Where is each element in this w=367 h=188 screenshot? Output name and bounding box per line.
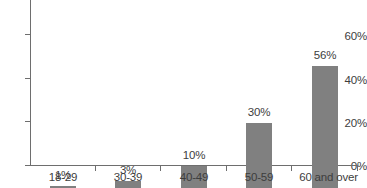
x-axis-label-50-59: 50-59: [229, 172, 289, 184]
bar-column-60-and-over: 56%: [312, 13, 338, 188]
x-tick-mark-1: [95, 166, 96, 171]
bar-18-29[interactable]: [50, 186, 76, 188]
bar-column-50-59: 30%: [246, 13, 272, 188]
y-tick-label-40: 40%: [344, 75, 367, 87]
bar-column-18-29: 1%: [50, 13, 76, 188]
x-tick-mark-4: [291, 166, 292, 171]
x-axis-label-40-49: 40-49: [164, 172, 224, 184]
bar-column-40-49: 10%: [181, 13, 207, 188]
x-axis-label-30-39: 30-39: [98, 172, 158, 184]
x-tick-mark-2: [160, 166, 161, 171]
y-tick-label-60: 60%: [344, 31, 367, 43]
bar-value-50-59: 30%: [246, 107, 272, 119]
bar-value-40-49: 10%: [181, 150, 207, 162]
bar-chart: 80% 60% 40% 20% 0% 1% 3% 10% 30% 56% 18-…: [0, 0, 367, 188]
x-axis-label-60-and-over: 60 and over: [290, 172, 367, 184]
bar-column-30-39: 3%: [115, 13, 141, 188]
y-axis-line: [30, 0, 31, 166]
x-tick-mark-3: [226, 166, 227, 171]
y-tick-label-20: 20%: [344, 118, 367, 130]
x-axis-label-18-29: 18-29: [33, 172, 93, 184]
bar-value-60-and-over: 56%: [312, 50, 338, 62]
bar-60-and-over[interactable]: [312, 66, 338, 188]
